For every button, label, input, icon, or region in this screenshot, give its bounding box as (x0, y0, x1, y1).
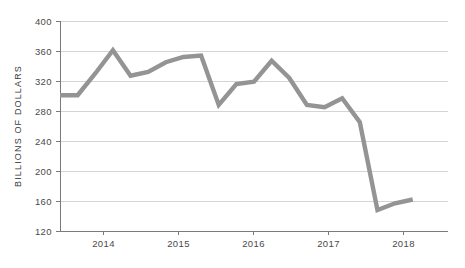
y-tick-label-400: 400 (35, 16, 52, 27)
gridlines (60, 22, 448, 202)
x-tick-label-2018: 2018 (392, 238, 415, 249)
x-tick-label-2016: 2016 (242, 238, 265, 249)
x-tick-label-2017: 2017 (317, 238, 340, 249)
x-tick-label-2014: 2014 (92, 238, 115, 249)
y-tick-label-160: 160 (35, 196, 52, 207)
y-axis-tick-labels: 400 360 320 280 240 200 160 120 (35, 16, 52, 237)
x-tick-label-2015: 2015 (167, 238, 190, 249)
y-tick-label-240: 240 (35, 136, 52, 147)
data-series-line (60, 50, 413, 210)
y-tick-label-200: 200 (35, 166, 52, 177)
x-axis-tick-labels: 2014 2015 2016 2017 2018 (92, 238, 415, 249)
y-tick-label-120: 120 (35, 226, 52, 237)
y-tick-label-280: 280 (35, 106, 52, 117)
y-tick-label-360: 360 (35, 46, 52, 57)
y-tick-label-320: 320 (35, 76, 52, 87)
y-tick-marks (56, 22, 60, 232)
chart-canvas: 400 360 320 280 240 200 160 120 2014 201… (0, 0, 465, 268)
y-axis-title: BILLIONS OF DOLLARS (13, 65, 23, 187)
line-chart: 400 360 320 280 240 200 160 120 2014 201… (0, 0, 465, 268)
